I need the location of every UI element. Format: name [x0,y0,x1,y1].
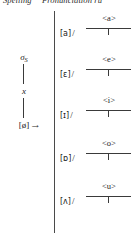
ipa-transcription: [ʌ] [60,197,71,206]
tree-stem [108,28,109,35]
output-structure-tree: <o> [85,138,133,168]
mapping-arrow-icon: → [30,119,41,130]
tree-node-sigma-label: σ [20,52,24,62]
output-structure-tree: <e> [85,54,133,84]
separator-slash: / [72,196,75,206]
output-label: [ʌ]/ [60,196,75,207]
separator-slash: / [70,110,73,120]
grapheme-label: <i> [85,95,133,105]
output-label: [ɪ]/ [60,110,73,121]
output-label: [ɒ]/ [60,153,75,164]
list-item: [ʌ]/ <u> [60,179,135,219]
output-candidates-list: [a]/ <a> [ɛ]/ <e> [ɪ]/ <i> [ɒ]/ <o> [60,11,135,236]
ipa-transcription: [a] [60,29,71,38]
tree-stem [108,153,109,160]
separator-slash: / [72,69,75,79]
output-structure-tree: <u> [85,181,133,211]
output-structure-tree: <a> [85,13,133,43]
tree-node-sigma-subscript: S [25,56,28,63]
output-label: [ɛ]/ [60,69,74,80]
tree-stem [108,196,109,203]
column-header-pronunciation: Pronunciation ru [42,0,102,5]
list-item: [a]/ <a> [60,11,135,51]
output-structure-tree: <i> [85,95,133,125]
output-label: [a]/ [60,28,75,39]
tree-branch-upper [23,64,24,84]
tree-stem [108,110,109,117]
grapheme-label: <e> [85,54,133,64]
list-item: [ɪ]/ <i> [60,93,135,133]
ipa-transcription: [ɛ] [60,70,71,79]
separator-slash: / [72,153,75,163]
grapheme-label: <o> [85,138,133,148]
tree-node-x: x [0,86,48,96]
tree-node-sigma: σS [0,52,48,63]
tree-branch-lower [23,98,24,118]
ipa-transcription: [ɒ] [60,154,71,163]
ipa-transcription: [ɪ] [60,111,69,120]
grapheme-label: <a> [85,13,133,23]
tree-stem [108,69,109,76]
separator-slash: / [72,28,75,38]
grouping-bracket [54,11,55,233]
table-header-strip: Spelling Pronunciation ru [0,0,135,9]
table-header-row: Spelling Pronunciation ru [3,0,102,5]
grapheme-label: <u> [85,181,133,191]
list-item: [ɛ]/ <e> [60,52,135,92]
column-header-spelling: Spelling [3,0,32,5]
list-item: [ɒ]/ <o> [60,136,135,176]
